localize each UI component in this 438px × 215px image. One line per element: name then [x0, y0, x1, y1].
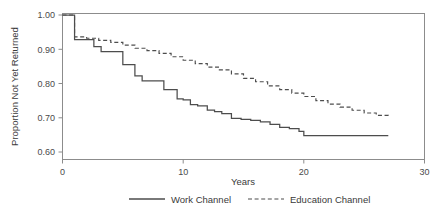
x-tick-label-0: 0: [60, 167, 65, 177]
x-tick-label-30: 30: [419, 167, 429, 177]
x-axis-ticks: [63, 160, 425, 164]
survival-chart-figure: 1.00 0.90 0.80 0.70 0.60 0 10 20 30 Year…: [0, 0, 438, 215]
y-axis-ticks: [59, 15, 63, 152]
chart-canvas: 1.00 0.90 0.80 0.70 0.60 0 10 20 30 Year…: [0, 0, 438, 215]
y-tick-label-060: 0.60: [37, 147, 55, 157]
legend-label-education-channel: Education Channel: [290, 194, 370, 205]
chart-legend: Work Channel Education Channel: [129, 194, 370, 205]
plot-frame: [63, 14, 425, 160]
y-tick-label-100: 1.00: [37, 10, 55, 20]
y-tick-labels: 1.00 0.90 0.80 0.70 0.60: [37, 10, 55, 157]
x-axis-title: Years: [231, 176, 255, 187]
x-tick-label-20: 20: [299, 167, 309, 177]
x-tick-label-10: 10: [178, 167, 188, 177]
y-tick-label-080: 0.80: [37, 79, 55, 89]
legend-label-work-channel: Work Channel: [171, 194, 231, 205]
series-line-education-channel: [63, 15, 389, 117]
y-tick-label-070: 0.70: [37, 113, 55, 123]
y-axis-title: Proportion Not Yet Returned: [9, 27, 20, 146]
series-line-work-channel: [63, 15, 389, 136]
y-tick-label-090: 0.90: [37, 45, 55, 55]
